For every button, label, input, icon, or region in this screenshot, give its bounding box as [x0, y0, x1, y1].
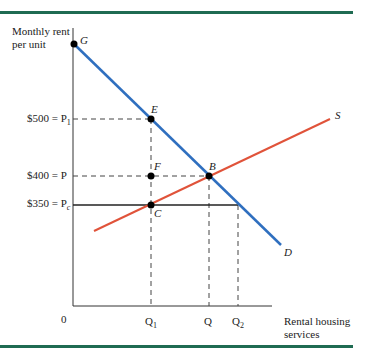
q2-text: Q [232, 315, 240, 327]
pc-subscript: c [67, 203, 71, 212]
pc-label: $350 = Pc [27, 197, 70, 214]
supply-label: S [335, 109, 341, 122]
y-axis-label-1: Monthly rent [12, 25, 70, 38]
point-b-label: B [209, 160, 216, 173]
origin-label: 0 [61, 313, 67, 326]
x-axis-label-2: services [284, 328, 319, 341]
q2-label: Q2 [232, 315, 244, 332]
demand-label: D [284, 246, 292, 259]
point-c-label: C [154, 207, 161, 220]
pc-text: $350 = P [27, 197, 67, 209]
y-axis-label-2: per unit [12, 38, 46, 51]
point-f [148, 173, 155, 180]
x-axis-label-1: Rental housing [284, 315, 350, 328]
p-label: $400 = P [27, 169, 67, 182]
point-g [71, 41, 78, 48]
q2-subscript: 2 [240, 321, 244, 330]
q1-subscript: 1 [153, 321, 157, 330]
q1-label: Q1 [145, 315, 157, 332]
point-f-label: F [154, 160, 161, 173]
point-g-label: G [80, 34, 88, 47]
p1-text: $500 = P [27, 112, 67, 124]
demand-curve [74, 44, 281, 245]
p1-label: $500 = P1 [27, 112, 71, 129]
point-e [148, 116, 155, 123]
point-e-label: E [151, 103, 158, 116]
q1-text: Q [145, 315, 153, 327]
point-b [206, 173, 213, 180]
p1-subscript: 1 [67, 118, 71, 127]
q-label: Q [204, 315, 212, 328]
